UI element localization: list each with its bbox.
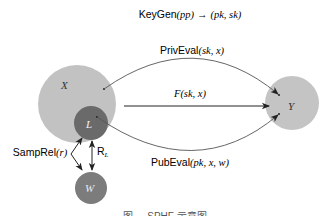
- diagram-canvas: KeyGen(pp) → (pk, sk) X L W Y PrivEval(s…: [0, 0, 327, 216]
- samp-rel-label: SampRel(r): [13, 146, 68, 159]
- relation-label: RL: [97, 145, 109, 159]
- pub-eval-arrow: [97, 115, 278, 151]
- keygen-title: KeyGen(pp) → (pk, sk): [139, 8, 242, 21]
- figure-caption: 图 ... SPHF 示意图: [123, 210, 206, 216]
- label-x: X: [60, 79, 69, 91]
- y-point-top: [278, 94, 280, 96]
- priv-eval-label: PrivEval(sk, x): [160, 44, 225, 57]
- label-w: W: [85, 182, 95, 194]
- pub-eval-label: PubEval(pk, x, w): [151, 156, 230, 169]
- f-label-full: F(sk, x): [173, 88, 207, 100]
- label-l: L: [85, 118, 92, 130]
- y-point-bottom: [278, 113, 280, 115]
